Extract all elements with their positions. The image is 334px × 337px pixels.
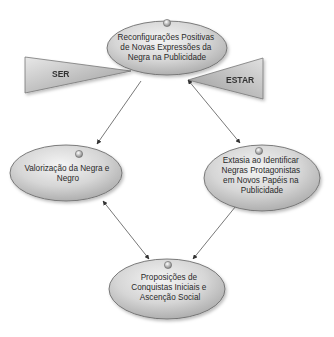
node-bottom-text: Proposições de Conquistas Iniciais e Asc…: [131, 273, 208, 302]
node-top-handle-icon: [163, 19, 170, 26]
node-bottom-line-3: Ascenção Social: [140, 293, 201, 302]
node-top-line-2: de Novas Expressões da: [120, 43, 211, 52]
node-left-handle-icon: [75, 150, 82, 157]
triangle-estar-label: ESTAR: [226, 75, 254, 85]
concept-diagram: SER ESTAR Reconfigurações Positivas de N…: [0, 0, 334, 337]
edge-top-to-left: [97, 81, 141, 144]
node-bottom-line-1: Proposições de: [141, 273, 198, 282]
node-bottom-line-2: Conquistas Iniciais e: [131, 283, 207, 292]
node-right-line-3: em Novos Papéis na: [223, 176, 299, 185]
node-bottom-handle-icon: [164, 261, 171, 268]
edge-right-bottom: [193, 201, 240, 259]
node-top-line-3: Negra na Publicidade: [128, 53, 207, 62]
node-right-line-1: Extasia ao Identificar: [223, 156, 299, 165]
node-right-line-4: Publicidade: [241, 186, 284, 195]
node-left-line-1: Valorização da Negra e: [24, 164, 109, 173]
node-right-handle-icon: [255, 147, 262, 154]
triangle-ser-shape: [25, 57, 131, 93]
triangle-ser: SER: [25, 57, 131, 93]
triangle-ser-label: SER: [52, 69, 69, 79]
node-left-line-2: Negro: [57, 174, 80, 183]
edge-left-bottom: [103, 201, 149, 259]
node-top-line-1: Reconfigurações Positivas: [118, 33, 214, 42]
node-right-line-2: Negras Protagonistas: [221, 166, 300, 175]
node-left: [10, 145, 122, 201]
node-top-text: Reconfigurações Positivas de Novas Expre…: [118, 33, 217, 62]
node-left-ellipse: [10, 145, 122, 201]
